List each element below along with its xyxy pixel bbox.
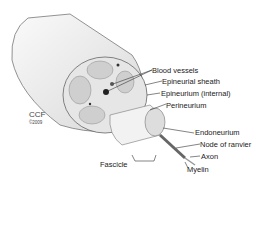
label-endoneurium: Endoneurium (195, 129, 240, 137)
label-myelin: Myelin (187, 166, 209, 174)
label-fascicle: Fascicle (100, 161, 128, 169)
label-axon: Axon (201, 153, 218, 161)
label-node-of-ranvier: Node of ranvier (200, 141, 251, 149)
label-perineurium: Perineurium (166, 102, 206, 110)
label-blood-vessels: Blood vessels (152, 67, 198, 75)
label-epineurial-sheath: Epineurial sheath (162, 78, 220, 86)
credit-copyright: ©2009 (29, 121, 42, 126)
credit-org: CCF (29, 111, 45, 119)
label-epineurium-internal: Epineurium (internal) (161, 90, 231, 98)
